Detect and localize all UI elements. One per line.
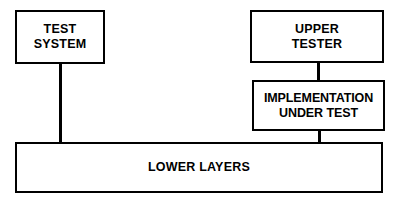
diagram-canvas: TEST SYSTEM UPPER TESTER IMPLEMENTATION … bbox=[0, 0, 399, 209]
node-lower-layers: LOWER LAYERS bbox=[15, 142, 383, 193]
connector-test-system-to-lower-layers bbox=[59, 62, 62, 144]
node-upper-tester: UPPER TESTER bbox=[250, 10, 384, 63]
node-implementation-under-test: IMPLEMENTATION UNDER TEST bbox=[252, 80, 385, 131]
node-lower-layers-label: LOWER LAYERS bbox=[148, 160, 250, 175]
connector-upper-tester-to-implementation-under-test bbox=[317, 61, 320, 82]
node-implementation-under-test-label: IMPLEMENTATION UNDER TEST bbox=[264, 91, 373, 121]
node-test-system: TEST SYSTEM bbox=[15, 10, 105, 64]
node-test-system-label: TEST SYSTEM bbox=[34, 22, 87, 52]
node-upper-tester-label: UPPER TESTER bbox=[292, 22, 343, 52]
